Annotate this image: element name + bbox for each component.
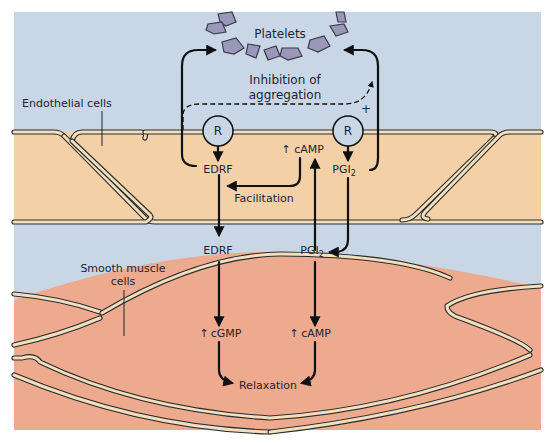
lumen-edrf-label: EDRF bbox=[203, 244, 232, 257]
cgmp-label: cGMP bbox=[211, 327, 242, 340]
endothelial-camp-up-arrow: ↑ bbox=[281, 143, 290, 156]
plus-sign: + bbox=[361, 102, 371, 116]
svg-text:R: R bbox=[214, 124, 222, 138]
endothelial-camp-label: cAMP bbox=[294, 143, 324, 156]
receptor-left: R bbox=[203, 116, 233, 146]
endothelial-layer bbox=[14, 132, 541, 222]
receptor-right: R bbox=[333, 116, 363, 146]
smooth-muscle-label-line2: cells bbox=[111, 275, 136, 288]
muscle-camp-label: cAMP bbox=[301, 327, 331, 340]
cgmp-up-arrow: ↑ bbox=[199, 327, 208, 340]
smooth-muscle-label-line1: Smooth muscle bbox=[80, 262, 165, 275]
platelet-shape bbox=[336, 12, 346, 22]
platelets-label: Platelets bbox=[254, 27, 306, 41]
facilitation-label: Facilitation bbox=[234, 192, 293, 205]
inhibition-label-line1: Inhibition of bbox=[249, 73, 321, 87]
endothelium-smooth-muscle-diagram: R R Platelets Inhibition of aggregation … bbox=[0, 0, 550, 443]
endothelial-edrf-label: EDRF bbox=[203, 163, 232, 176]
muscle-camp-up-arrow: ↑ bbox=[289, 327, 298, 340]
endothelial-cells-label: Endothelial cells bbox=[22, 97, 112, 110]
inhibition-label-line2: aggregation bbox=[249, 88, 322, 102]
smooth-muscle-layer bbox=[14, 252, 541, 432]
svg-text:R: R bbox=[344, 124, 352, 138]
relaxation-label: Relaxation bbox=[239, 379, 297, 392]
